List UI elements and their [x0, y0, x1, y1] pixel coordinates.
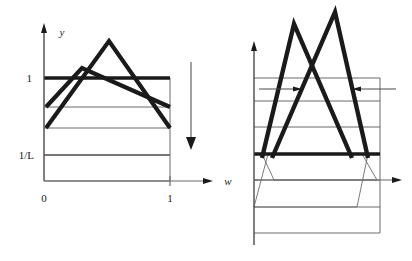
left-y-axis-label: y: [59, 26, 65, 38]
right-plot: [251, 12, 402, 245]
left-y-tick-label-one: 1: [27, 72, 33, 84]
left-x-tick-label-zero: 0: [41, 192, 47, 204]
left-plot: y w 1 1/L 0 1: [19, 23, 233, 204]
left-y-tick-label-invl: 1/L: [19, 149, 35, 161]
right-thin-spread-right-inner: [362, 154, 377, 180]
right-curve-tent-left: [262, 24, 352, 158]
inward-arrow-right: [352, 87, 396, 92]
left-x-tick-label-one: 1: [167, 192, 173, 204]
figure-canvas: y w 1 1/L 0 1: [0, 0, 412, 261]
downward-arrow: [186, 62, 196, 150]
right-y-axis-arrowhead: [251, 41, 257, 51]
right-x-axis-arrowhead: [392, 177, 402, 183]
left-x-axis-arrowhead: [203, 178, 213, 184]
downward-arrow-head: [186, 137, 196, 150]
figure-root: y w 1 1/L 0 1: [0, 0, 412, 261]
left-x-axis-label: w: [224, 175, 232, 187]
left-y-axis-arrowhead: [41, 23, 47, 33]
